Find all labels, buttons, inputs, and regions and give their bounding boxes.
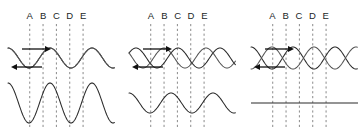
panel-constructive-graphic xyxy=(0,0,121,133)
panel-constructive-interference: A B C D E xyxy=(0,0,121,133)
guide-lines xyxy=(272,24,325,128)
resultant-wave xyxy=(129,93,235,113)
panel-destructive-interference: A B C D E xyxy=(243,0,364,133)
arrow-right-head xyxy=(45,46,51,52)
arrow-left-head xyxy=(132,64,138,70)
wave-rightward xyxy=(129,48,235,68)
panel-partial-graphic xyxy=(121,0,242,133)
wave-leftward xyxy=(8,48,114,68)
panel-partial-interference: A B C D E xyxy=(121,0,242,133)
arrow-left-head xyxy=(11,64,17,70)
panel-destructive-graphic xyxy=(243,0,364,133)
upper-wave-group xyxy=(251,47,357,69)
upper-wave-group xyxy=(129,48,235,68)
upper-wave-group xyxy=(8,48,114,68)
guide-lines xyxy=(151,24,204,128)
direction-arrows xyxy=(11,46,51,70)
guide-lines xyxy=(30,24,83,128)
lower-resultant-group xyxy=(8,83,114,123)
wave-interference-figure: A B C D E A B C D E A B C D E xyxy=(0,0,364,133)
resultant-wave xyxy=(8,83,114,123)
direction-arrows xyxy=(132,46,172,70)
wave-leftward xyxy=(129,48,235,68)
lower-resultant-group xyxy=(129,93,235,113)
